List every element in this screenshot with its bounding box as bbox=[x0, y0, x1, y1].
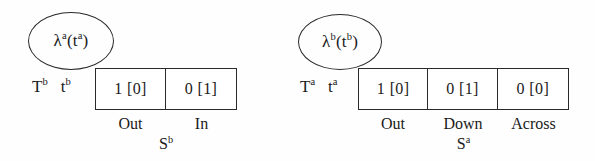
state-strip-left: 1 [0] 0 [1] bbox=[95, 68, 237, 110]
state-cell[interactable]: 0 [1] bbox=[428, 69, 497, 109]
state-cell[interactable]: 0 [1] bbox=[166, 69, 236, 109]
figure-canvas: λa(ta) Tb tb 1 [0] 0 [1] Out In Sb λb(tb… bbox=[0, 0, 595, 161]
state-cell[interactable]: 1 [0] bbox=[96, 69, 166, 109]
lambda-bubble-right-label: λb(tb) bbox=[322, 33, 358, 50]
label-t-right: ta bbox=[328, 78, 337, 95]
label-t-left: tb bbox=[61, 78, 71, 95]
cell-caption: Across bbox=[498, 116, 569, 132]
row-labels-left: Tb tb bbox=[32, 78, 71, 95]
diagram-right: λb(tb) Ta ta 1 [0] 0 [1] 0 [0] Out Down … bbox=[297, 0, 595, 161]
cell-caption: Down bbox=[428, 116, 498, 132]
row-labels-right: Ta ta bbox=[300, 78, 338, 95]
label-T-left: Tb bbox=[32, 78, 48, 95]
label-T-right: Ta bbox=[300, 78, 315, 95]
lambda-bubble-left-label: λa(ta) bbox=[54, 32, 89, 49]
cell-caption: Out bbox=[95, 116, 166, 132]
captions-left: Out In bbox=[95, 116, 237, 132]
state-cell[interactable]: 0 [0] bbox=[498, 69, 568, 109]
state-name-right: Sa bbox=[358, 136, 569, 152]
lambda-bubble-right: λb(tb) bbox=[298, 14, 382, 70]
state-strip-right: 1 [0] 0 [1] 0 [0] bbox=[358, 68, 569, 110]
lambda-bubble-left: λa(ta) bbox=[28, 12, 114, 70]
diagram-left: λa(ta) Tb tb 1 [0] 0 [1] Out In Sb bbox=[0, 0, 297, 161]
cell-caption: In bbox=[166, 116, 237, 132]
cell-caption: Out bbox=[358, 116, 428, 132]
state-name-left: Sb bbox=[95, 136, 237, 152]
captions-right: Out Down Across bbox=[358, 116, 569, 132]
state-cell[interactable]: 1 [0] bbox=[359, 69, 428, 109]
